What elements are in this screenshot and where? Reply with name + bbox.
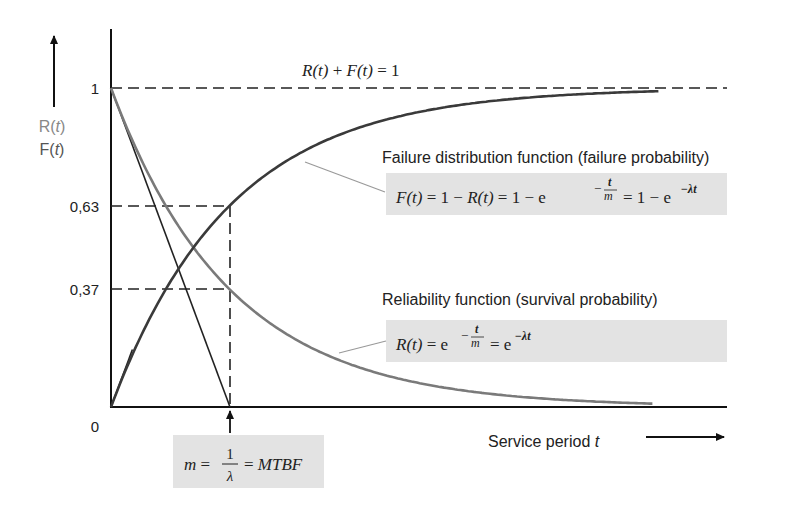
svg-text:−λt: −λt <box>681 182 697 196</box>
svg-text:λ: λ <box>226 468 234 484</box>
failure-title: Failure distribution function (failure p… <box>382 149 709 166</box>
chart: R(t) F(t) 1 0,63 0,37 0 Service period t… <box>0 0 798 508</box>
y-label-r: R(t) <box>39 118 66 135</box>
failure-formula: F(t) = 1 − R(t) = 1 − e − t m = 1 − e −λ… <box>395 175 697 207</box>
failure-leader-line <box>305 162 385 192</box>
x-axis-label-text: Service period <box>488 433 595 450</box>
svg-text:R(t) = e: R(t) = e <box>395 335 448 354</box>
mtbf-formula: m = 1 λ = MTBF <box>184 446 303 484</box>
y-tick-063: 0,63 <box>70 198 99 215</box>
svg-text:F(t) = 1 − R(t) = 1 − e: F(t) = 1 − R(t) = 1 − e <box>395 188 546 207</box>
svg-text:m: m <box>471 336 480 350</box>
reliability-leader-line <box>339 341 386 353</box>
reliability-formula: R(t) = e − t m = e −λt <box>395 322 531 354</box>
y-tick-037: 0,37 <box>70 281 99 298</box>
svg-text:t: t <box>475 322 479 336</box>
svg-text:m: m <box>604 189 613 203</box>
svg-text:= 1 − e: = 1 − e <box>623 188 671 207</box>
svg-text:= MTBF: = MTBF <box>244 455 303 474</box>
svg-text:−λt: −λt <box>515 329 531 343</box>
svg-text:1: 1 <box>226 446 234 462</box>
svg-text:t: t <box>608 175 612 189</box>
reliability-title: Reliability function (survival probabili… <box>382 291 658 308</box>
y-tick-1: 1 <box>91 80 99 97</box>
x-axis-label: Service period t <box>488 433 600 450</box>
svg-text:−: − <box>594 181 601 196</box>
sum-identity: R(t) + F(t) = 1 <box>301 61 400 80</box>
reliability-curve <box>111 88 652 404</box>
y-label-f: F(t) <box>40 141 65 158</box>
svg-text:= e: = e <box>490 335 511 354</box>
failure-curve <box>111 91 658 407</box>
svg-text:−: − <box>461 328 468 343</box>
svg-text:m =: m = <box>184 455 210 474</box>
y-tick-0: 0 <box>91 418 99 435</box>
